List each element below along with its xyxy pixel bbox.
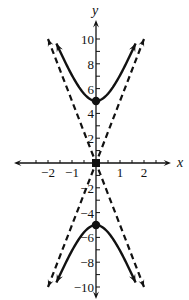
hyperbola-graph: −2−112−10−8−6−4−2246810xy x y <box>0 0 189 300</box>
x-axis-title: x <box>176 155 184 170</box>
x-tick-label: −2 <box>41 165 55 180</box>
y-axis-title: y <box>90 3 99 18</box>
x-tick-label: 2 <box>141 165 148 180</box>
y-tick-label: −2 <box>80 181 94 196</box>
y-tick-label: −6 <box>80 230 94 245</box>
graph-canvas: −2−112−10−8−6−4−2246810xy <box>0 0 189 300</box>
vertex-point <box>92 97 100 105</box>
x-tick-label: −1 <box>65 165 79 180</box>
y-tick-label: 4 <box>88 106 95 121</box>
asymptote-arrow-icon <box>139 39 145 47</box>
y-tick-label: −10 <box>74 280 94 295</box>
y-tick-label: 2 <box>88 131 95 146</box>
tick-labels: −2−112−10−8−6−4−2246810xy <box>41 3 184 295</box>
vertex-point <box>92 221 100 229</box>
x-tick-label: 1 <box>117 165 124 180</box>
y-tick-label: −4 <box>80 206 94 221</box>
y-tick-label: −8 <box>80 255 94 270</box>
asymptote-arrow-icon <box>48 39 54 47</box>
y-tick-label: 8 <box>88 57 95 72</box>
y-tick-label: 6 <box>88 82 95 97</box>
center-point <box>92 159 100 167</box>
asymptote-arrow-icon <box>48 279 54 287</box>
y-tick-label: 10 <box>81 32 94 47</box>
asymptote-arrow-icon <box>139 279 145 287</box>
